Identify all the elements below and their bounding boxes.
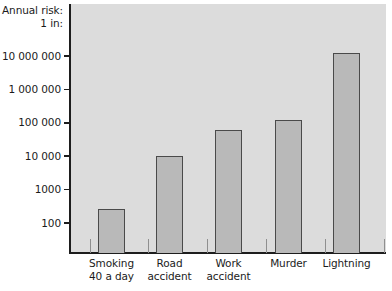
y-tick-label: 1000 — [0, 184, 61, 195]
category-separator — [384, 239, 385, 253]
y-tick-label: 1 000 000 — [0, 84, 61, 95]
y-axis-line — [69, 4, 71, 254]
bar — [98, 209, 125, 253]
y-tick-mark — [64, 155, 70, 157]
category-separator — [266, 239, 267, 253]
bar — [275, 120, 302, 253]
y-tick-label: 10 000 000 — [0, 51, 61, 62]
y-tick-mark — [64, 122, 70, 124]
y-tick-mark — [64, 222, 70, 224]
category-separator — [148, 239, 149, 253]
bar — [215, 130, 242, 253]
bar — [156, 156, 183, 253]
y-tick-label: 10 000 — [0, 151, 61, 162]
bar — [333, 53, 360, 253]
category-separator — [90, 239, 91, 253]
category-label: Lightning — [311, 257, 383, 270]
y-tick-mark — [64, 89, 70, 91]
category-separator — [325, 239, 326, 253]
y-tick-label: 100 000 — [0, 117, 61, 128]
category-separator — [207, 239, 208, 253]
y-tick-mark — [64, 55, 70, 57]
risk-bar-chart: Annual risk: 1 in: 100100010 000100 0001… — [0, 0, 392, 291]
y-axis-label: Annual risk: 1 in: — [0, 4, 63, 29]
y-tick-mark — [64, 189, 70, 191]
y-tick-label: 100 — [0, 218, 61, 229]
